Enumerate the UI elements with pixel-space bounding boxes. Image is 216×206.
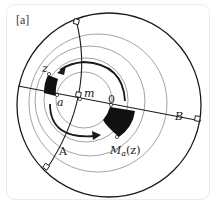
hyperbolic-disk-diagram: [a] z a m 0 A B Ma(z) bbox=[0, 0, 216, 206]
label-B: B bbox=[174, 110, 183, 123]
panel-label: [a] bbox=[16, 13, 29, 27]
label-Ma-z: Ma(z) bbox=[109, 144, 140, 158]
label-m: m bbox=[84, 87, 94, 100]
arrowhead-upper-icon bbox=[57, 66, 66, 75]
arrowhead-lower-icon bbox=[92, 131, 101, 140]
right-angle-marker-right bbox=[195, 116, 201, 122]
right-angle-marker-m bbox=[76, 92, 82, 98]
right-angle-marker-top bbox=[73, 19, 79, 25]
hyperbolic-circle-outer bbox=[29, 34, 167, 172]
point-m bbox=[78, 97, 81, 100]
label-a: a bbox=[57, 96, 64, 109]
label-A: A bbox=[58, 145, 68, 158]
label-z: z bbox=[41, 62, 48, 75]
label-origin: 0 bbox=[108, 93, 115, 106]
point-z bbox=[47, 72, 50, 75]
point-Ma-z bbox=[115, 135, 118, 138]
region-near-Ma bbox=[103, 107, 135, 137]
